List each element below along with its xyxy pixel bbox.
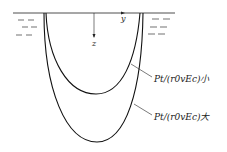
curve-small-label: Pt/(r0vEc)小 (154, 72, 209, 85)
curve-small (46, 13, 140, 94)
y-axis-label: y (121, 14, 126, 23)
water-dashes-left (16, 20, 37, 35)
curve-large-label: Pt/(r0vEc)大 (154, 110, 209, 123)
z-axis-arrow-icon (93, 34, 96, 38)
leader-small (131, 64, 152, 77)
curve-large (44, 13, 143, 142)
z-axis-label: z (92, 39, 96, 48)
leader-large (134, 104, 152, 115)
water-dashes-right (148, 19, 170, 34)
